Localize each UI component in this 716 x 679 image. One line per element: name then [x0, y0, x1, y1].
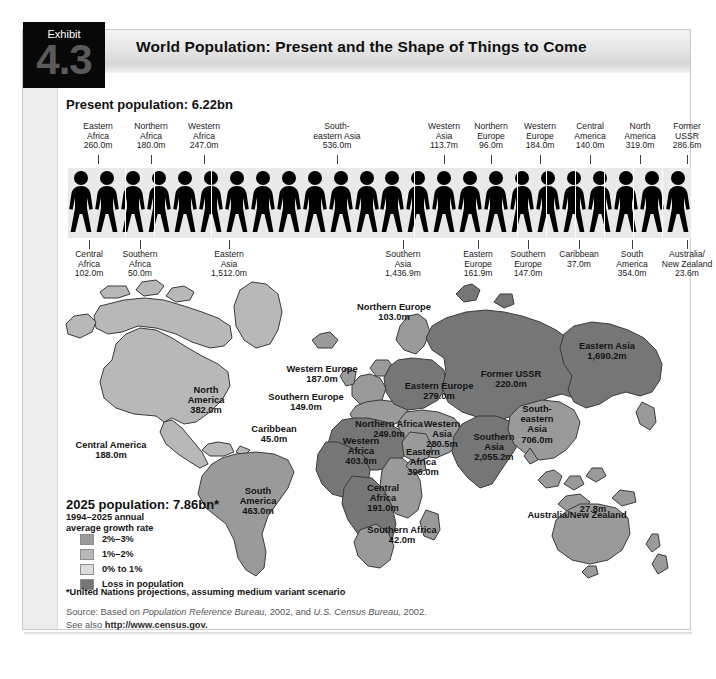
pictogram-tick: [140, 240, 141, 249]
region-sea-islands-2: [564, 476, 584, 490]
pictogram-label: Western Africa 247.0m: [178, 122, 230, 151]
population-figure: [431, 170, 457, 236]
legend-subtitle: 1994–2025 annual average growth rate: [66, 512, 153, 533]
pictogram-divider: [546, 168, 547, 238]
region-central-america: [160, 420, 208, 468]
source-ref-1: Population Reference Bureau,: [143, 607, 268, 617]
population-figure: [405, 170, 431, 236]
source-suffix: 2002.: [401, 607, 427, 617]
legend-swatch: [80, 564, 94, 575]
pictogram-divider: [662, 168, 663, 238]
pictogram-tick: [687, 155, 688, 164]
exhibit-number: 4.3: [23, 39, 105, 81]
legend-label: 2%–3%: [102, 534, 134, 545]
present-population-title: Present population: 6.22bn: [66, 97, 233, 112]
map-label: Southern Africa 42.0m: [352, 525, 452, 545]
exhibit-figure: World Population: Present and the Shape …: [0, 0, 716, 679]
region-japan: [636, 402, 656, 430]
pictogram-chart: [68, 168, 691, 238]
map-label: Southern Asia 2,055.2m: [459, 432, 529, 463]
population-figure: [587, 170, 613, 236]
pictogram-tick: [687, 240, 688, 249]
pictogram-divider: [517, 168, 518, 238]
region-sea-islands-3: [586, 468, 606, 482]
source-line-2: See also http://www.census.gov.: [66, 619, 427, 632]
population-figure: [509, 170, 535, 236]
pictogram-tick: [337, 155, 338, 164]
pictogram-label: Central America 140.0m: [564, 122, 616, 151]
region-tasmania: [582, 566, 598, 578]
page-title: World Population: Present and the Shape …: [136, 38, 676, 64]
pictogram-label: Caribbean 37.0m: [552, 250, 606, 269]
pictogram-label: Eastern Africa 260.0m: [72, 122, 124, 151]
map-label: Western Europe 187.0m: [274, 364, 370, 384]
population-figure: [328, 170, 354, 236]
population-figure: [94, 170, 120, 236]
source-prefix: Source: Based on: [66, 607, 143, 617]
map-label: Northern Europe 103.0m: [344, 302, 444, 322]
pictogram-divider: [154, 168, 155, 238]
map-label: Southern Europe 149.0m: [254, 392, 358, 412]
pictogram-label: Western Europe 184.0m: [514, 122, 566, 151]
pictogram-label: Northern Europe 96.0m: [466, 122, 516, 151]
source-mid: 2002, and: [267, 607, 314, 617]
pictogram-tick: [89, 240, 90, 249]
pictogram-tick: [640, 155, 641, 164]
map-label: Eastern Africa 396.0m: [392, 447, 454, 478]
pictogram-tick: [204, 155, 205, 164]
region-alaska: [66, 314, 96, 338]
pictogram-tick: [528, 240, 529, 249]
panel-shadow: [24, 632, 692, 635]
pictogram-tick: [151, 155, 152, 164]
footnote: *United Nations projections, assuming me…: [66, 587, 345, 597]
legend-title: 2025 population: 7.86bn*: [66, 497, 219, 512]
census-url: http://www.census.gov.: [105, 620, 208, 630]
pictogram-divider: [604, 168, 605, 238]
population-figure: [457, 170, 483, 236]
pictogram-divider: [633, 168, 634, 238]
pictogram-label: Northern Africa 180.0m: [124, 122, 178, 151]
region-new-zealand-2: [652, 554, 668, 574]
pictogram-tick: [403, 240, 404, 249]
pictogram-tick: [579, 240, 580, 249]
population-figure: [250, 170, 276, 236]
region-eastern-asia: [560, 322, 662, 408]
population-figure: [302, 170, 328, 236]
legend-swatch: [80, 534, 94, 545]
map-label: Eastern Asia 1,690.2m: [562, 341, 652, 361]
see-also-prefix: See also: [66, 620, 105, 630]
pictogram-label: South- eastern Asia 536.0m: [296, 122, 378, 151]
world-map: Northern Europe 103.0mWestern Europe 187…: [60, 272, 690, 584]
map-label: Central America 188.0m: [60, 440, 162, 460]
legend-label: 1%–2%: [102, 549, 134, 560]
legend-label: 0% to 1%: [102, 564, 142, 575]
pictogram-divider: [575, 168, 576, 238]
map-label: North America 382.0m: [170, 385, 242, 416]
region-arctic-islands-3: [166, 286, 194, 302]
region-ussr-arctic-isl2: [494, 294, 514, 308]
population-figure: [120, 170, 146, 236]
pictogram-divider: [211, 168, 212, 238]
population-figure: [613, 170, 639, 236]
population-figure: [379, 170, 405, 236]
pictogram-label: North America 319.0m: [614, 122, 666, 151]
exhibit-badge: Exhibit 4.3: [23, 22, 105, 88]
population-figure: [535, 170, 561, 236]
source-line-1: Source: Based on Population Reference Bu…: [66, 606, 427, 619]
region-ussr-arctic-isl: [456, 284, 480, 302]
population-figure: [68, 170, 94, 236]
population-figure: [665, 170, 691, 236]
pictogram-label: Former USSR 286.6m: [662, 122, 712, 151]
pictogram-tick: [590, 155, 591, 164]
panel-left-stripe: [23, 58, 57, 629]
pictogram-label: Western Asia 113.7m: [420, 122, 468, 151]
region-sea-islands: [538, 470, 562, 488]
pictogram-tick: [98, 155, 99, 164]
region-arctic-islands-2: [136, 280, 164, 296]
pictogram-tick: [632, 240, 633, 249]
map-label: Central Africa 191.0m: [352, 483, 414, 514]
region-iceland: [312, 332, 338, 348]
pictogram-tick: [478, 240, 479, 249]
map-label: South America 463.0m: [226, 486, 290, 517]
pictogram-divider: [125, 168, 126, 238]
